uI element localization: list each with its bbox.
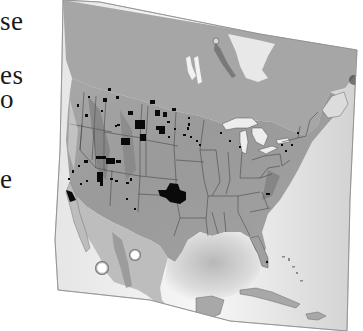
corner-smudge xyxy=(349,75,359,85)
bright-spot-west xyxy=(95,261,109,275)
north-america-relief-map xyxy=(0,0,363,331)
bright-spot-east xyxy=(129,249,141,261)
lake-marker-north xyxy=(213,38,219,44)
florida-dot xyxy=(266,261,268,263)
